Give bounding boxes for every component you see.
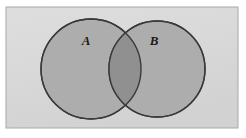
venn-diagram-canvas: A B: [0, 0, 246, 138]
set-a-label: A: [81, 33, 91, 48]
set-b-label: B: [149, 33, 159, 48]
venn-diagram-figure: A B: [0, 0, 246, 138]
